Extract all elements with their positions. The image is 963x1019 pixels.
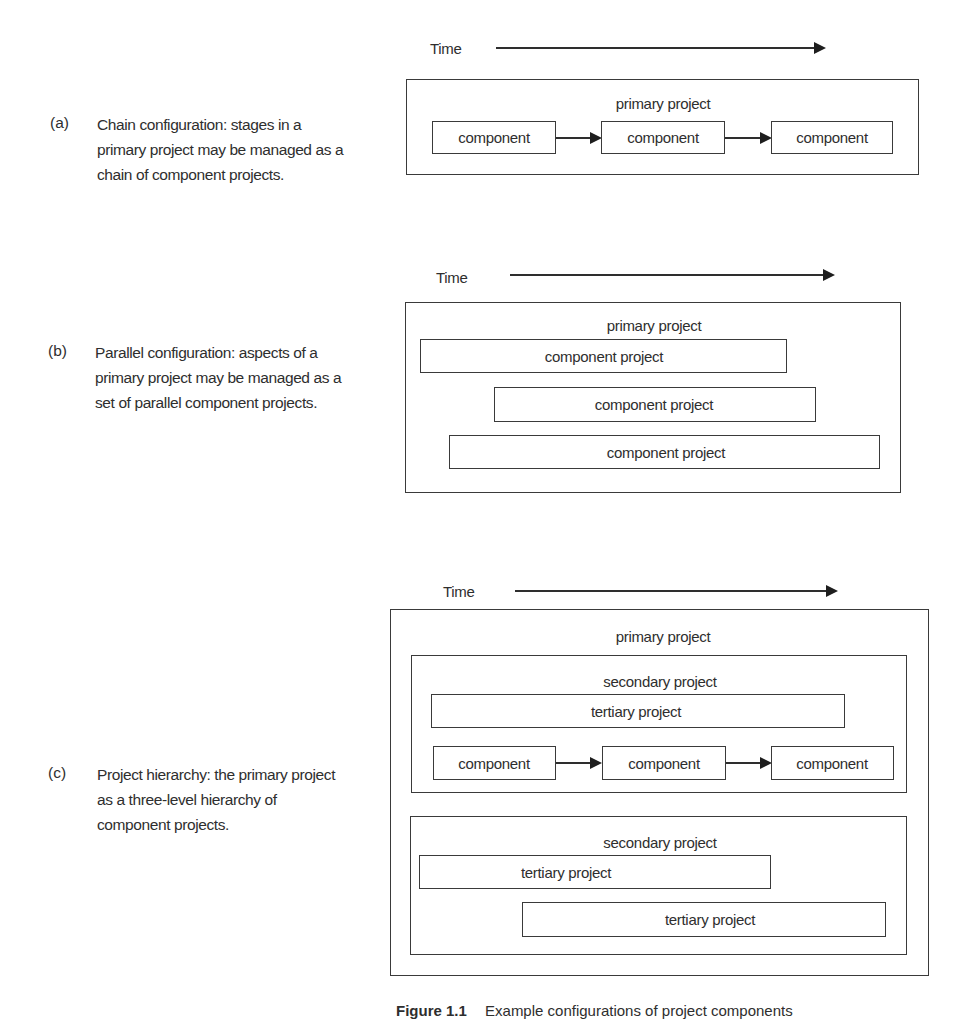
description-line: Parallel configuration: aspects of a <box>95 340 341 365</box>
arrow-right-icon <box>826 585 838 597</box>
panel-c-tag: (c) <box>48 764 66 782</box>
component-label: component <box>796 756 868 771</box>
arrow-right-icon <box>590 757 602 769</box>
time-axis-line <box>496 47 816 49</box>
arrow-right-icon <box>823 269 835 281</box>
panel-a-tag: (a) <box>50 114 69 132</box>
description-line: as a three-level hierarchy of <box>97 787 335 812</box>
description-line: component projects. <box>97 812 335 837</box>
component-label: component <box>628 756 700 771</box>
connector-line <box>556 137 591 139</box>
component-label: component <box>627 130 699 145</box>
description-line: primary project may be managed as a <box>95 365 341 390</box>
primary-project-label: primary project <box>616 629 711 644</box>
secondary-project-label: secondary project <box>603 674 716 689</box>
panel-b-description: Parallel configuration: aspects of a pri… <box>95 340 341 415</box>
arrow-right-icon <box>814 42 826 54</box>
figure-number: Figure 1.1 <box>396 1002 467 1019</box>
connector-line <box>556 762 591 764</box>
component-label: component <box>458 756 530 771</box>
tertiary-project-label: tertiary project <box>591 704 681 719</box>
description-line: Project hierarchy: the primary project <box>97 762 335 787</box>
description-line: primary project may be managed as a <box>97 137 343 162</box>
figure-caption: Figure 1.1 Example configurations of pro… <box>396 1002 793 1019</box>
connector-line <box>726 762 761 764</box>
panel-b-tag: (b) <box>48 342 67 360</box>
description-line: set of parallel component projects. <box>95 390 341 415</box>
description-line: Chain configuration: stages in a <box>97 112 343 137</box>
time-label: Time <box>436 269 468 286</box>
time-axis-line <box>515 590 827 592</box>
panel-a-description: Chain configuration: stages in a primary… <box>97 112 343 187</box>
component-project-label: component project <box>607 445 725 460</box>
component-project-label: component project <box>595 397 713 412</box>
tertiary-project-label: tertiary project <box>521 865 611 880</box>
caption-text: Example configurations of project compon… <box>485 1002 793 1019</box>
component-label: component <box>458 130 530 145</box>
connector-line <box>725 137 761 139</box>
component-project-label: component project <box>545 349 663 364</box>
description-line: chain of component projects. <box>97 162 343 187</box>
time-label: Time <box>430 40 462 57</box>
primary-project-label: primary project <box>607 318 702 333</box>
tertiary-project-label: tertiary project <box>665 912 755 927</box>
component-label: component <box>796 130 868 145</box>
time-label: Time <box>443 583 475 600</box>
secondary-project-label: secondary project <box>603 835 716 850</box>
panel-c-description: Project hierarchy: the primary project a… <box>97 762 335 837</box>
primary-project-label: primary project <box>616 96 711 111</box>
time-axis-line <box>510 274 824 276</box>
